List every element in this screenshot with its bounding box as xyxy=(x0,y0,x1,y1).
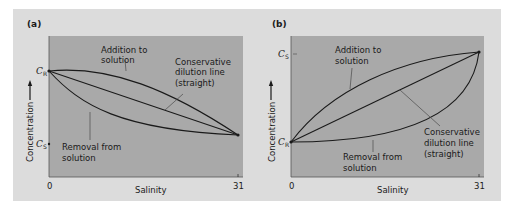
panel-a-y-marker-upper: CR xyxy=(36,66,47,77)
panel-a-x-tick-31: 31 xyxy=(233,181,244,191)
mixing-diagram: (a) Addition to solution Conservative di… xyxy=(0,0,515,219)
panel-b-addition-label-1: Addition to xyxy=(335,45,381,55)
panel-a-addition-label-1: Addition to xyxy=(101,45,147,55)
panel-a: (a) Addition to solution Conservative di… xyxy=(25,19,244,195)
panel-b-removal-label-2: solution xyxy=(343,163,377,173)
panel-b-conservative-label-2: dilution line xyxy=(424,138,474,148)
panel-b-addition-label-2: solution xyxy=(335,56,369,66)
panel-a-x-axis-label: Salinity xyxy=(135,185,166,195)
panel-b-x-axis-label: Salinity xyxy=(377,185,408,195)
panel-a-endpoint-river xyxy=(47,69,50,72)
panel-b-removal-label-1: Removal from xyxy=(343,152,402,162)
arrow-up-icon xyxy=(269,80,273,86)
panel-a-x-tick-0: 0 xyxy=(47,181,52,191)
panel-a-y-marker-lower: CS xyxy=(36,139,47,150)
panel-b-x-tick-0: 0 xyxy=(289,181,294,191)
panel-b-y-marker-lower: CR xyxy=(278,137,289,148)
panel-a-removal-label-2: solution xyxy=(62,153,96,163)
panel-a-addition-label-2: solution xyxy=(101,55,135,65)
panel-a-cs-dot xyxy=(48,143,50,145)
panel-b-conservative-label-1: Conservative xyxy=(424,127,480,137)
panel-a-removal-label-1: Removal from xyxy=(62,142,121,152)
panel-a-letter: (a) xyxy=(27,19,41,29)
panel-a-endpoint-sea xyxy=(236,133,239,136)
panel-b-x-tick-31: 31 xyxy=(474,181,485,191)
panel-a-y-axis-label: Concentration xyxy=(25,102,35,162)
panel-b-endpoint-sea xyxy=(477,50,480,53)
panel-b-y-marker-upper: CS xyxy=(278,49,289,60)
panel-a-conservative-label-2: dilution line xyxy=(175,67,225,77)
panel-b-y-axis-label: Concentration xyxy=(267,102,277,162)
panel-b-conservative-label-3: (straight) xyxy=(424,149,464,159)
panel-a-conservative-label-1: Conservative xyxy=(175,57,231,67)
panel-b-endpoint-river xyxy=(289,140,292,143)
panel-a-conservative-label-3: (straight) xyxy=(175,78,215,88)
panel-b: (b) Addition to solution Conservative di… xyxy=(267,19,485,195)
panel-b-letter: (b) xyxy=(272,19,287,29)
arrow-up-icon xyxy=(28,80,32,86)
